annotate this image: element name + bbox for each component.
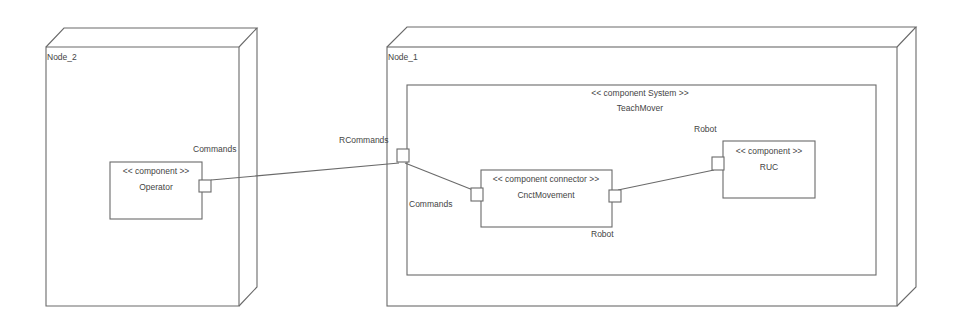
port-ruc-robot[interactable] <box>712 157 724 170</box>
deployment-diagram: Node_2 Node_1 << component System >> Tea… <box>0 0 961 330</box>
operator-name: Operator <box>139 182 173 192</box>
port-label-operator-commands: Commands <box>193 144 236 154</box>
node-2-side-face <box>239 28 257 306</box>
node-1-side-face <box>897 27 916 306</box>
port-label-cnct-commands: Commands <box>409 199 452 209</box>
node-2-label: Node_2 <box>47 52 77 62</box>
port-label-cnct-robot: Robot <box>591 229 614 239</box>
ruc-stereotype: << component >> <box>736 146 803 156</box>
system-name: TeachMover <box>617 103 663 113</box>
port-cnct-robot[interactable] <box>609 190 621 202</box>
port-system-rcommands[interactable] <box>397 149 409 162</box>
cnct-stereotype: << component connector >> <box>493 174 599 184</box>
operator-stereotype: << component >> <box>123 166 190 176</box>
port-label-ruc-robot: Robot <box>694 124 717 134</box>
ruc-name: RUC <box>760 162 778 172</box>
system-stereotype: << component System >> <box>591 88 688 98</box>
cnct-name: CnctMovement <box>517 190 575 200</box>
node-2-top-face <box>46 28 257 47</box>
port-label-system-rcommands: RCommands <box>339 135 389 145</box>
port-operator-commands[interactable] <box>199 180 211 192</box>
node-1-label: Node_1 <box>388 52 418 62</box>
node-1-top-face <box>387 27 916 47</box>
port-cnct-commands[interactable] <box>471 188 483 201</box>
